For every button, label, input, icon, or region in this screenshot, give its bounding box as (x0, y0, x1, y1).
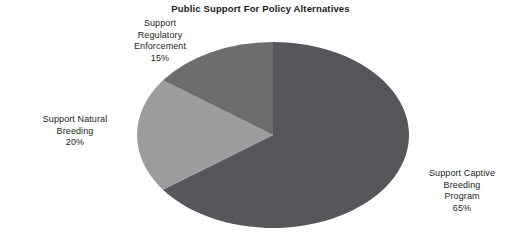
pie-label-line-3: Enforcement (100, 41, 220, 53)
pie-label-line-3: Program (402, 191, 521, 203)
pie-label-value: 15% (100, 53, 220, 65)
pie-label-line-1: Support (100, 18, 220, 30)
pie-chart-figure: Public Support For Policy Alternatives S… (0, 0, 521, 243)
pie-slices (137, 42, 409, 228)
pie-label-line-1: Support Captive (402, 168, 521, 180)
pie-label-line-1: Support Natural (10, 114, 140, 126)
pie-plot-area (137, 42, 409, 228)
pie-label-support-captive-breeding-program: Support Captive Breeding Program 65% (402, 168, 521, 214)
pie-svg (137, 42, 409, 228)
pie-label-line-2: Breeding (402, 180, 521, 192)
pie-label-line-2: Regulatory (100, 30, 220, 42)
pie-label-line-2: Breeding (10, 126, 140, 138)
pie-label-value: 65% (402, 203, 521, 215)
pie-label-value: 20% (10, 137, 140, 149)
chart-title: Public Support For Policy Alternatives (0, 3, 521, 14)
pie-label-support-regulatory-enforcement: Support Regulatory Enforcement 15% (100, 18, 220, 64)
pie-label-support-natural-breeding: Support Natural Breeding 20% (10, 114, 140, 149)
